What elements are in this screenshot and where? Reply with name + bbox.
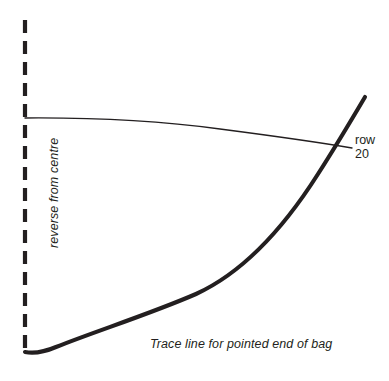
row-callout-line-2: 20	[355, 148, 375, 162]
row-callout-line-1: row	[355, 134, 375, 148]
axis-label-reverse-from-centre: reverse from centre	[48, 138, 62, 248]
diagram-canvas: reverse from centre Trace line for point…	[0, 0, 389, 381]
trace-line-caption: Trace line for pointed end of bag	[150, 338, 332, 352]
row-callout-label: row 20	[355, 134, 375, 162]
